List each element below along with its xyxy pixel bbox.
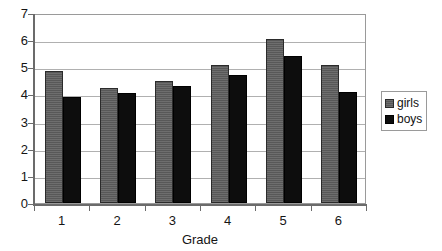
x-axis-tick-label-3: 3 (145, 214, 200, 228)
y-axis-tick-label: 7 (2, 7, 28, 20)
plot-area (34, 14, 366, 204)
x-axis-tick (34, 205, 35, 211)
y-axis-tick (28, 123, 34, 124)
x-axis-tick-label-4: 4 (200, 214, 255, 228)
x-axis-tick (255, 205, 256, 211)
bar-boys-grade-4 (229, 75, 247, 203)
bar-boys-grade-1 (63, 97, 81, 203)
chart-legend: girls boys (381, 91, 427, 131)
cropped-caption (30, 246, 360, 251)
bar-girls-grade-2 (100, 88, 118, 203)
x-axis-tick (200, 205, 201, 211)
gridline (35, 69, 365, 70)
x-axis-tick-label-5: 5 (255, 214, 310, 228)
y-axis-tick-label: 5 (2, 61, 28, 74)
gridline (35, 96, 365, 97)
y-axis-tick-label: 2 (2, 143, 28, 156)
x-axis-tick-label-6: 6 (311, 214, 366, 228)
y-axis-tick (28, 95, 34, 96)
y-axis-tick (28, 177, 34, 178)
bar-girls-grade-1 (45, 71, 63, 203)
bar-boys-grade-5 (284, 56, 302, 203)
legend-label-boys: boys (397, 113, 422, 126)
bar-girls-grade-3 (155, 81, 173, 203)
bar-girls-grade-6 (321, 65, 339, 203)
x-axis-title: Grade (34, 233, 366, 247)
y-axis-tick (28, 68, 34, 69)
y-axis-tick (28, 14, 34, 15)
legend-item-girls: girls (385, 95, 422, 111)
gridline (35, 151, 365, 152)
y-axis-tick-label: 6 (2, 34, 28, 47)
bar-chart: 01234567 123456 Grade girls boys (0, 0, 442, 251)
gridline (35, 178, 365, 179)
x-axis-tick (366, 205, 367, 211)
y-axis-labels: 01234567 (0, 0, 28, 251)
y-axis-tick-label: 1 (2, 170, 28, 183)
gridline (35, 42, 365, 43)
x-axis-tick-label-1: 1 (34, 214, 89, 228)
legend-item-boys: boys (385, 111, 422, 127)
bar-girls-grade-5 (266, 39, 284, 203)
x-axis-tick (145, 205, 146, 211)
legend-label-girls: girls (397, 97, 419, 110)
y-axis-tick-label: 4 (2, 88, 28, 101)
bar-girls-grade-4 (211, 65, 229, 203)
bar-boys-grade-6 (339, 92, 357, 203)
y-axis-tick (28, 150, 34, 151)
y-axis-tick (28, 41, 34, 42)
legend-swatch-boys-icon (385, 115, 394, 124)
bar-boys-grade-3 (173, 86, 191, 203)
y-axis-tick-label: 0 (2, 197, 28, 210)
x-axis-tick-label-2: 2 (89, 214, 144, 228)
bar-boys-grade-2 (118, 93, 136, 203)
gridline (35, 124, 365, 125)
legend-swatch-girls-icon (385, 99, 394, 108)
y-axis-tick-label: 3 (2, 116, 28, 129)
x-axis-tick (311, 205, 312, 211)
x-axis-tick (89, 205, 90, 211)
